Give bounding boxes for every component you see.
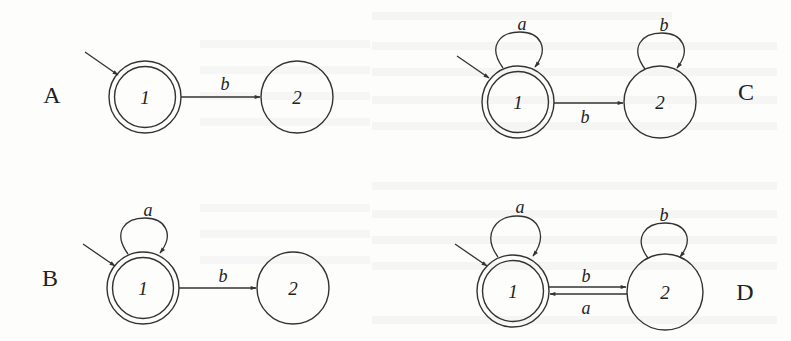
state-label: 1 bbox=[508, 281, 518, 302]
start-arrow-icon bbox=[83, 244, 115, 266]
transition-label: a bbox=[144, 200, 153, 220]
self-loop-arrow-icon bbox=[638, 33, 684, 69]
transition-label: b bbox=[219, 266, 228, 286]
panel-label-a: A bbox=[43, 82, 61, 108]
bleed-through-texture bbox=[200, 12, 777, 324]
transition-label: b bbox=[582, 266, 591, 286]
state-label: 1 bbox=[138, 278, 148, 299]
start-arrow-icon bbox=[85, 52, 118, 75]
self-loop-arrow-icon bbox=[121, 218, 167, 254]
figure-canvas: A 1 2 b B 1 a bbox=[0, 0, 791, 341]
transition-label: b bbox=[660, 15, 669, 35]
state-1-accepting: 1 bbox=[109, 61, 181, 133]
transition-label: b bbox=[660, 205, 669, 225]
state-label: 1 bbox=[140, 87, 150, 108]
state-label: 2 bbox=[655, 92, 665, 113]
transition-label: a bbox=[582, 298, 591, 318]
state-label: 2 bbox=[660, 282, 670, 303]
state-label: 2 bbox=[292, 87, 302, 108]
transition-label: a bbox=[518, 14, 527, 34]
state-1-accepting: 1 bbox=[107, 252, 179, 324]
panel-label-d: D bbox=[736, 279, 753, 305]
panel-label-c: C bbox=[738, 79, 754, 105]
state-label: 1 bbox=[513, 92, 523, 113]
automata-figure: A 1 2 b B 1 a bbox=[0, 0, 791, 341]
transition-label: b bbox=[581, 107, 590, 127]
transition-label: b bbox=[221, 74, 230, 94]
state-label: 2 bbox=[288, 278, 298, 299]
panel-label-b: B bbox=[42, 265, 58, 291]
transition-label: a bbox=[516, 197, 525, 217]
